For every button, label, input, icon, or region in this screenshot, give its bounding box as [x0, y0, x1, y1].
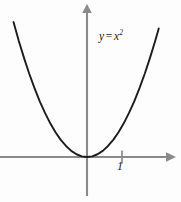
plot-canvas	[0, 0, 181, 202]
equation-exponent: 2	[119, 28, 123, 37]
equation-label: y=x2	[99, 31, 123, 43]
x-axis-arrow-icon	[166, 152, 176, 162]
parabola-figure: 1 y=x2	[0, 0, 181, 202]
y-axis-arrow-icon	[82, 4, 92, 13]
x-tick-label-1: 1	[117, 160, 123, 172]
equation-equals-sign: =	[104, 30, 114, 42]
